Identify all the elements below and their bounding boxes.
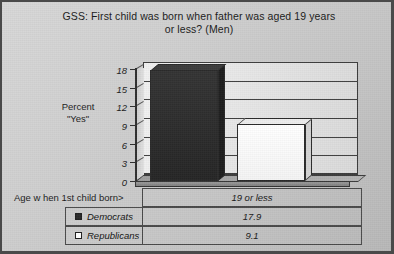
series-label-democrats: Democrats [87,211,133,222]
bar-republicans [237,124,305,181]
y-axis-tick-label: 15 [116,83,127,94]
legend-swatch-icon-republicans [75,232,82,239]
chart-title-line-2: or less? (Men) [165,23,234,35]
y-axis-tick-label: 6 [122,139,127,150]
y-axis-tick-label: 9 [122,121,127,132]
legend-cell-republicans: Republicans [65,226,142,245]
y-axis-label-line-1: Percent [62,101,95,112]
category-header-cell: 19 or less [142,188,362,207]
y-axis-label-line-2: "Yes" [67,113,89,124]
value-cell-republicans: 9.1 [142,226,362,245]
y-axis-tick: 3 [130,162,136,163]
plot-area: 1815129630 [129,62,365,188]
gridline [144,62,358,63]
table-row: Republicans 9.1 [10,226,362,245]
y-axis-tick: 9 [130,125,136,126]
bar-front-face [150,70,218,181]
y-axis-tick-label: 18 [116,65,127,76]
y-axis-tick-label: 3 [122,158,127,169]
bar-democrats [150,70,218,181]
y-axis-tick: 18 [130,69,136,70]
series-label-republicans: Republicans [87,230,139,241]
table-row: Democrats 17.9 [10,207,362,226]
value-cell-democrats: 17.9 [142,207,362,226]
plot-floor-front [135,181,350,187]
bar-side-face [305,119,312,181]
chart-page: GSS: First child was born when father wa… [0,0,394,254]
y-axis-tick: 12 [130,106,136,107]
chart-title-line-1: GSS: First child was born when father wa… [63,10,336,22]
bar-front-face [237,124,305,181]
y-axis-label: Percent "Yes" [32,101,124,125]
y-axis-tick: 6 [130,144,136,145]
chart-title: GSS: First child was born when father wa… [38,10,360,36]
x-axis-caption: Age w hen 1st child born> [10,188,142,207]
legend-cell-democrats: Democrats [65,207,142,226]
legend-swatch-icon-democrats [75,213,82,220]
legend-entry-democrats: Democrats [10,207,142,226]
data-table: Age w hen 1st child born> 19 or less Dem… [10,188,362,245]
y-axis-tick-label: 0 [122,177,127,188]
legend-entry-republicans: Republicans [10,226,142,245]
y-axis-tick: 15 [130,88,136,89]
bar-side-face [218,64,225,181]
table-header-row: Age w hen 1st child born> 19 or less [10,188,362,207]
y-axis-tick-label: 12 [116,102,127,113]
